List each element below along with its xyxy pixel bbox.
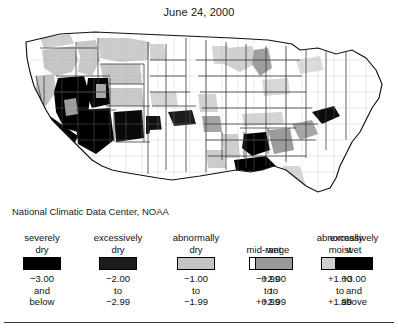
bottom-divider — [4, 322, 394, 323]
legend-label-line2: wet — [312, 244, 396, 256]
region-mississippi-abnormally-moist — [222, 134, 240, 158]
legend-range-line3: +2.99 — [244, 296, 304, 308]
region-montana-abnormally-dry — [98, 38, 150, 62]
legend-item-excessively-wet[interactable]: excessively wet +3.00 and above — [312, 232, 396, 308]
legend-swatch-wet — [255, 257, 293, 270]
region-louisiana-abnormally-moist — [206, 150, 226, 168]
legend-label-line1: wet — [244, 244, 304, 256]
region-utah-inset-abnormally-dry — [96, 84, 106, 98]
legend-right-group: wet +2.00 to +2.99 excessively wet +3.00… — [0, 232, 398, 318]
legend-range-line1: +2.00 — [244, 273, 304, 285]
region-missouri-abnormally-moist — [198, 94, 218, 112]
page-title: June 24, 2000 — [0, 6, 398, 18]
climate-map-figure: June 24, 2000 — [0, 0, 398, 328]
legend-range-line1: +3.00 — [312, 273, 396, 285]
region-central-nevada-abnormally-dry-inset — [64, 98, 78, 116]
region-new-mexico-severely-dry — [114, 110, 144, 142]
legend-range-line2: and — [312, 285, 396, 297]
us-map-svg[interactable] — [0, 20, 398, 200]
us-map[interactable] — [0, 20, 398, 200]
credit-text: National Climatic Data Center, NOAA — [12, 206, 169, 217]
legend-swatch-excessively-wet — [335, 257, 373, 270]
region-wisconsin-abnormally-moist — [212, 46, 230, 64]
region-kansas-abnormally-dry — [150, 92, 178, 106]
legend-range-line3: above — [312, 296, 396, 308]
legend-label-line1: excessively — [312, 232, 396, 244]
legend-item-wet[interactable]: wet +2.00 to +2.99 — [244, 244, 304, 308]
legend-range-line2: to — [244, 285, 304, 297]
